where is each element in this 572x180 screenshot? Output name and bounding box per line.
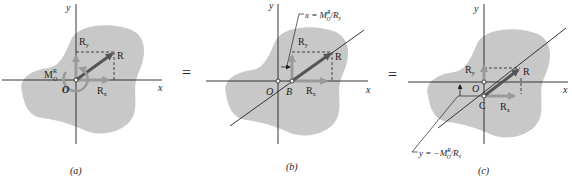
y-axis-label: y bbox=[65, 2, 71, 13]
panel-b: y x O B R Ry Rx x = MRO/Ry (b) bbox=[206, 0, 371, 173]
caption-b: (b) bbox=[286, 161, 298, 173]
dimension-formula: y = −MRO/Rx bbox=[418, 147, 462, 160]
panel-a: y x O R Ry Rx MRO (a) bbox=[2, 2, 163, 177]
resultant-label: R bbox=[335, 51, 342, 62]
resultant-label: R bbox=[523, 66, 530, 77]
caption-a: (a) bbox=[70, 165, 82, 177]
equivalent-force-systems-figure: y x O R Ry Rx MRO (a) = y x O B R Ry Rx … bbox=[0, 0, 572, 180]
x-axis-label: x bbox=[562, 84, 568, 95]
equals-sign-1: = bbox=[182, 64, 191, 81]
x-axis-label: x bbox=[157, 82, 163, 93]
y-axis-label: y bbox=[473, 3, 479, 14]
x-axis-label: x bbox=[365, 84, 371, 95]
resultant-label: R bbox=[117, 50, 124, 61]
origin-label: O bbox=[62, 84, 69, 95]
y-axis-label: y bbox=[268, 0, 274, 11]
origin-point bbox=[276, 79, 280, 83]
equals-sign-2: = bbox=[388, 66, 397, 83]
dimension-formula: x = MRO/Ry bbox=[304, 9, 341, 22]
point-b bbox=[290, 79, 294, 83]
point-c bbox=[482, 94, 486, 98]
origin-label: O bbox=[266, 86, 273, 97]
origin-label: O bbox=[472, 83, 479, 94]
origin-point bbox=[74, 78, 78, 82]
point-b-label: B bbox=[286, 86, 292, 97]
panel-c: y x O C R Ry Rx y = −MRO/Rx (c) bbox=[408, 3, 568, 177]
rigid-body-shape bbox=[427, 29, 550, 137]
caption-c: (c) bbox=[478, 165, 490, 177]
point-c-label: C bbox=[479, 100, 486, 111]
origin-point bbox=[482, 80, 486, 84]
